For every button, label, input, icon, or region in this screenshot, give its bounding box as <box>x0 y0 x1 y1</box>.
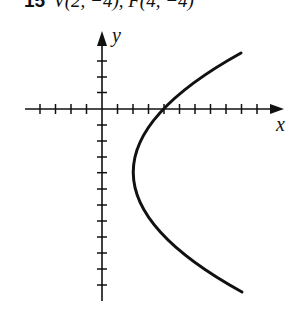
x-axis-label: x <box>275 113 285 135</box>
parabola-curve <box>133 53 242 292</box>
y-axis-label: y <box>110 24 121 47</box>
parabola-graph: x y <box>0 0 296 321</box>
y-axis-arrow-icon <box>97 31 107 46</box>
